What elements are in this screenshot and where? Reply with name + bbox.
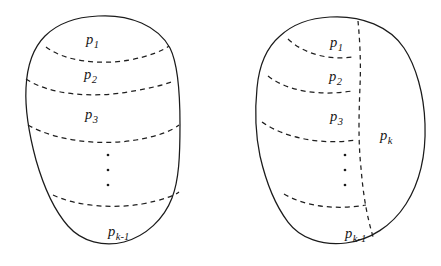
left-region-outline: [26, 16, 180, 244]
left-divider-2: [26, 79, 174, 95]
left-vertical-ellipsis: [107, 154, 110, 187]
label-right-pk: pk: [380, 128, 392, 143]
right-divider-pk-boundary: [358, 21, 374, 240]
partition-diagram-svg: [0, 0, 441, 266]
left-region-group: [26, 16, 180, 244]
label-right-pk-minus-1: pk-1: [345, 226, 366, 241]
label-right-p2: p2: [329, 69, 342, 84]
left-divider-1: [46, 46, 169, 62]
label-right-p1: p1: [330, 35, 343, 50]
left-divider-4: [53, 192, 179, 206]
label-left-p1: p1: [86, 32, 99, 47]
figure-canvas: p1 p2 p3 pk-1 p1 p2 p3 pk pk-1: [0, 0, 441, 266]
right-divider-4: [284, 194, 366, 207]
label-left-pk-minus-1: pk-1: [108, 224, 129, 239]
label-left-p2: p2: [84, 67, 97, 82]
right-vertical-ellipsis: [344, 154, 347, 187]
label-right-p3: p3: [330, 109, 343, 124]
left-divider-3: [28, 125, 179, 142]
label-left-p3: p3: [85, 107, 98, 122]
